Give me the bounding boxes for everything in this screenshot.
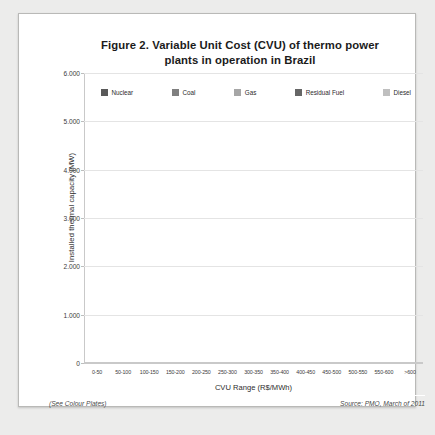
gridline	[84, 315, 423, 316]
y-tick-label: 6.000	[63, 70, 80, 77]
y-tick-label: 5.000	[63, 118, 80, 125]
gridline	[84, 73, 423, 74]
bar-column[interactable]	[397, 72, 423, 362]
x-tick-label: 450-500	[319, 369, 345, 381]
page-background: Figure 2. Variable Unit Cost (CVU) of th…	[0, 0, 435, 435]
bar-column[interactable]	[162, 72, 188, 362]
bar-column[interactable]	[84, 72, 110, 362]
bar-column[interactable]	[293, 72, 319, 362]
source-note: Source: PMO, March of 2011	[340, 400, 425, 407]
x-tick-label: 100-150	[136, 369, 162, 381]
x-tick-label: 150-200	[162, 369, 188, 381]
x-axis-title: CVU Range (R$/MWh)	[84, 383, 423, 392]
y-axis-title: Installed thermal capacity (MW)	[67, 108, 76, 308]
gridline	[84, 266, 423, 267]
y-tick-mark	[81, 266, 84, 267]
bar-column[interactable]	[371, 72, 397, 362]
y-tick-mark	[81, 73, 84, 74]
y-tick-mark	[81, 170, 84, 171]
gridline	[84, 363, 423, 364]
y-tick-mark	[81, 218, 84, 219]
y-tick-label: 3.000	[63, 215, 80, 222]
x-tick-label: 350-400	[267, 369, 293, 381]
x-tick-label: 400-450	[293, 369, 319, 381]
bar-column[interactable]	[214, 72, 240, 362]
x-tick-label: 250-300	[214, 369, 240, 381]
x-tick-label: 300-350	[240, 369, 266, 381]
x-tick-label: 0-50	[84, 369, 110, 381]
bar-column[interactable]	[188, 72, 214, 362]
gridline	[84, 170, 423, 171]
gridline	[84, 218, 423, 219]
x-tick-label: 550-600	[371, 369, 397, 381]
y-tick-label: 2.000	[63, 263, 80, 270]
bar-column[interactable]	[240, 72, 266, 362]
bar-column[interactable]	[267, 72, 293, 362]
y-tick-mark	[81, 363, 84, 364]
footer-divider	[47, 395, 425, 396]
x-axis-tick-labels: 0-5050-100100-150150-200200-250250-30030…	[84, 369, 423, 381]
document-page: Figure 2. Variable Unit Cost (CVU) of th…	[18, 13, 416, 407]
axis-area: 01.0002.0003.0004.0005.0006.000	[84, 73, 423, 363]
bar-column[interactable]	[136, 72, 162, 362]
bar-column[interactable]	[319, 72, 345, 362]
bar-column[interactable]	[345, 72, 371, 362]
x-tick-label: 200-250	[188, 369, 214, 381]
plot-area: Installed thermal capacity (MW) 01.0002.…	[41, 28, 431, 408]
x-tick-label: >600	[397, 369, 423, 381]
x-tick-label: 50-100	[110, 369, 136, 381]
y-tick-label: 1.000	[63, 311, 80, 318]
y-tick-label: 4.000	[63, 166, 80, 173]
figure-container: Figure 2. Variable Unit Cost (CVU) of th…	[41, 28, 431, 408]
gridline	[84, 121, 423, 122]
y-tick-label: 0	[76, 360, 80, 367]
y-tick-mark	[81, 121, 84, 122]
x-tick-label: 500-550	[345, 369, 371, 381]
bar-group	[84, 72, 423, 362]
colour-plates-note: (See Colour Plates)	[49, 400, 107, 407]
bar-column[interactable]	[110, 72, 136, 362]
y-tick-mark	[81, 315, 84, 316]
